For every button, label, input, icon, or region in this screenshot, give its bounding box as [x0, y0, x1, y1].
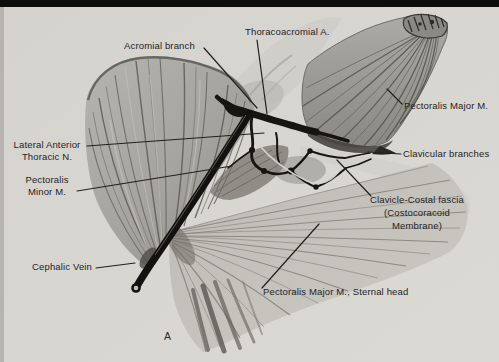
- label-pectoralis-major-sternal-head: Pectoralis Major M., Sternal head: [263, 286, 408, 298]
- anatomy-figure: Acromial branch Thoracoacromial A. Pecto…: [0, 0, 499, 362]
- label-lateral-anterior-thoracic-nerve: Lateral Anterior Thoracic N.: [5, 139, 89, 163]
- label-clavicle-costal-fascia: Clavicle-Costal fascia (Costocoracoid Me…: [362, 193, 472, 232]
- label-pectoralis-major: Pectoralis Major M.: [404, 100, 488, 112]
- left-edge-shade: [0, 7, 4, 362]
- label-pectoralis-minor: Pectoralis Minor M.: [18, 174, 76, 198]
- label-acromial-branch: Acromial branch: [124, 40, 195, 52]
- top-border-bar: [0, 0, 499, 7]
- label-thoracoacromial-artery: Thoracoacromial A.: [245, 26, 330, 38]
- label-cephalic-vein: Cephalic Vein: [32, 261, 92, 273]
- label-clavicular-branches: Clavicular branches: [403, 148, 489, 160]
- figure-caption-letter: A: [164, 330, 171, 342]
